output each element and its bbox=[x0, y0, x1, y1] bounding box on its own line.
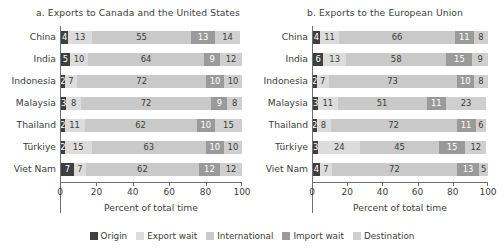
y-axis-label: Indonesia bbox=[2, 70, 60, 92]
bar-segment-destination: 12 bbox=[220, 53, 242, 66]
x-axis-tick bbox=[206, 182, 207, 186]
y-axis-label: Viet Nam bbox=[2, 158, 60, 180]
panel-b-x-tick-labels: 020406080100 bbox=[312, 187, 488, 200]
bar-segment-import-wait: 11 bbox=[427, 97, 446, 110]
bar-segment-international: 51 bbox=[338, 97, 427, 110]
stacked-bar: 211621015 bbox=[61, 119, 242, 132]
panel-b-title: b. Exports to the European Union bbox=[256, 0, 504, 22]
legend-item: Import wait bbox=[282, 231, 343, 241]
x-axis-tick-label: 0 bbox=[309, 187, 315, 197]
y-axis-label: Thailand bbox=[256, 114, 312, 136]
bar-segment-destination: 15 bbox=[215, 119, 242, 132]
x-axis-tick bbox=[241, 182, 242, 186]
bar-segment-origin: 4 bbox=[313, 31, 320, 44]
bar-segment-international: 72 bbox=[77, 75, 206, 88]
bar-segment-destination: 14 bbox=[215, 31, 240, 44]
bar-segment-international: 64 bbox=[88, 53, 204, 66]
panel-a-plot-area: ChinaIndiaIndonesiaMalaysiaThailandTürki… bbox=[2, 26, 256, 213]
bar-segment-international: 62 bbox=[85, 119, 197, 132]
bar-segment-origin: 4 bbox=[61, 31, 68, 44]
bar-segment-import-wait: 15 bbox=[446, 53, 472, 66]
bar-segment-destination: 6 bbox=[476, 119, 487, 132]
bar-segment-export-wait: 13 bbox=[323, 53, 346, 66]
panel-b-y-axis-labels: ChinaIndiaIndonesiaMalaysiaThailandTürki… bbox=[256, 26, 312, 213]
legend-swatch-icon bbox=[90, 232, 98, 240]
stacked-bar: 413551314 bbox=[61, 31, 242, 44]
legend-swatch-icon bbox=[282, 232, 290, 240]
legend-item: Destination bbox=[353, 231, 414, 241]
bar-segment-export-wait: 11 bbox=[318, 97, 337, 110]
bar-segment-international: 55 bbox=[92, 31, 192, 44]
x-axis-tick bbox=[312, 182, 313, 186]
bar-segment-international: 73 bbox=[329, 75, 457, 88]
bar-segment-international: 58 bbox=[346, 53, 447, 66]
bar-row: 27721010 bbox=[60, 70, 242, 92]
bar-segment-destination: 12 bbox=[220, 163, 242, 176]
bar-segment-export-wait: 13 bbox=[68, 31, 92, 44]
bar-segment-export-wait: 8 bbox=[66, 97, 80, 110]
legend-label: Destination bbox=[364, 231, 414, 241]
legend-label: International bbox=[217, 231, 273, 241]
bar-row: 77621212 bbox=[60, 158, 242, 180]
bar-segment-export-wait: 15 bbox=[65, 141, 92, 154]
stacked-bar: 4772135 bbox=[313, 163, 488, 176]
bar-segment-export-wait: 8 bbox=[317, 119, 331, 132]
y-axis-label: Türkiye bbox=[256, 136, 312, 158]
bar-row: 2872116 bbox=[312, 114, 488, 136]
bar-row: 311511123 bbox=[312, 92, 488, 114]
bar-segment-international: 66 bbox=[339, 31, 455, 44]
stacked-bar: 41166118 bbox=[313, 31, 488, 44]
bar-segment-international: 63 bbox=[92, 141, 206, 154]
bar-row: 387298 bbox=[60, 92, 242, 114]
y-axis-label: Thailand bbox=[2, 114, 60, 136]
x-axis-tick-label: 20 bbox=[341, 187, 352, 197]
x-axis-tick bbox=[169, 182, 170, 186]
x-axis-tick bbox=[133, 182, 134, 186]
chart-panel-b: b. Exports to the European Union ChinaIn… bbox=[256, 0, 504, 215]
bar-segment-origin: 5 bbox=[61, 53, 70, 66]
panel-a-x-tick-labels: 020406080100 bbox=[60, 187, 242, 200]
bar-segment-import-wait: 11 bbox=[457, 119, 476, 132]
bar-segment-export-wait: 7 bbox=[65, 75, 78, 88]
stacked-bar: 27721010 bbox=[61, 75, 242, 88]
bar-segment-import-wait: 10 bbox=[206, 141, 224, 154]
bar-segment-international: 72 bbox=[331, 119, 457, 132]
bar-segment-international: 72 bbox=[332, 163, 457, 176]
x-axis-tick bbox=[60, 182, 61, 186]
legend-swatch-icon bbox=[136, 232, 144, 240]
chart-legend: OriginExport waitInternationalImport wai… bbox=[0, 231, 504, 241]
stacked-bar-chart-figure: a. Exports to Canada and the United Stat… bbox=[0, 0, 504, 251]
stacked-bar: 324451512 bbox=[313, 141, 488, 154]
bar-segment-destination: 8 bbox=[227, 97, 241, 110]
bar-segment-import-wait: 12 bbox=[199, 163, 221, 176]
y-axis-label: Malaysia bbox=[256, 92, 312, 114]
bar-segment-import-wait: 15 bbox=[439, 141, 465, 154]
panel-a-title: a. Exports to Canada and the United Stat… bbox=[2, 0, 256, 22]
x-axis-tick bbox=[453, 182, 454, 186]
legend-item: International bbox=[206, 231, 273, 241]
stacked-bar: 215631010 bbox=[61, 141, 242, 154]
y-axis-label: Viet Nam bbox=[256, 158, 312, 180]
x-axis-tick-label: 20 bbox=[91, 187, 102, 197]
legend-item: Export wait bbox=[136, 231, 197, 241]
bar-segment-export-wait: 7 bbox=[74, 163, 87, 176]
y-axis-label: India bbox=[256, 48, 312, 70]
stacked-bar: 77621212 bbox=[61, 163, 242, 176]
legend-swatch-icon bbox=[206, 232, 214, 240]
stacked-bar: 51064912 bbox=[61, 53, 242, 66]
x-axis-tick bbox=[347, 182, 348, 186]
y-axis-label: China bbox=[256, 26, 312, 48]
panel-a-x-axis-line bbox=[60, 182, 242, 183]
bar-segment-origin: 6 bbox=[313, 53, 323, 66]
bar-segment-international: 45 bbox=[360, 141, 439, 154]
y-axis-label: China bbox=[2, 26, 60, 48]
bar-segment-import-wait: 9 bbox=[211, 97, 227, 110]
bar-segment-export-wait: 11 bbox=[65, 119, 85, 132]
x-axis-tick bbox=[418, 182, 419, 186]
panel-b-plot-area: ChinaIndiaIndonesiaMalaysiaThailandTürki… bbox=[256, 26, 504, 213]
bar-segment-import-wait: 13 bbox=[191, 31, 215, 44]
bar-row: 61358159 bbox=[312, 48, 488, 70]
bar-row: 51064912 bbox=[60, 48, 242, 70]
y-axis-label: Malaysia bbox=[2, 92, 60, 114]
bar-row: 413551314 bbox=[60, 26, 242, 48]
